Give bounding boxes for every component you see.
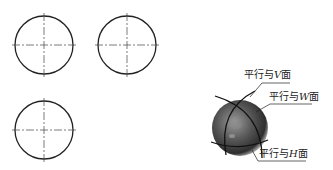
label-parallel-v-plane: 平行与V面: [244, 69, 291, 81]
top-view-circle: [12, 98, 77, 162]
label-parallel-w-plane: 平行与W面: [269, 91, 319, 103]
front-view-circle: [12, 13, 77, 77]
side-view-circle: [95, 13, 160, 77]
diagram-canvas: [0, 0, 333, 170]
label-parallel-h-plane: 平行与H面: [259, 148, 308, 160]
